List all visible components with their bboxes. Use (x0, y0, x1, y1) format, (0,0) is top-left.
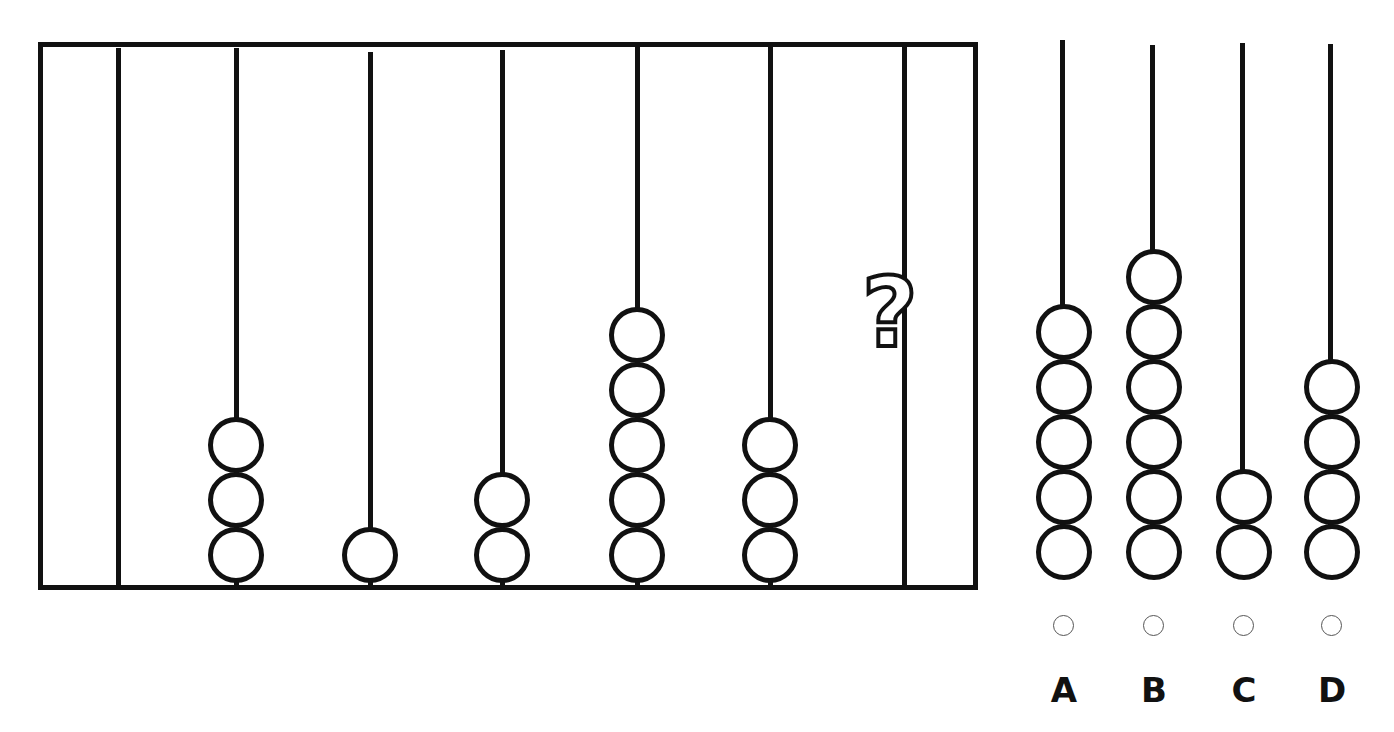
bead (474, 527, 530, 583)
bead (1126, 414, 1182, 470)
bead (1216, 469, 1272, 525)
bead (1036, 304, 1092, 360)
option-radio-a[interactable] (1053, 615, 1074, 636)
bead (1036, 524, 1092, 580)
bead (609, 307, 665, 363)
bead (609, 527, 665, 583)
bead (1126, 249, 1182, 305)
bead (1036, 359, 1092, 415)
bead (1216, 524, 1272, 580)
bead (742, 472, 798, 528)
option-label-d[interactable]: D (1312, 670, 1352, 710)
bead (1036, 469, 1092, 525)
bead (1036, 414, 1092, 470)
option-radio-c[interactable] (1233, 615, 1254, 636)
bead (609, 362, 665, 418)
bead (1126, 359, 1182, 415)
bead (742, 527, 798, 583)
bead (1304, 414, 1360, 470)
abacus-rod-3 (368, 52, 373, 585)
option-radio-b[interactable] (1143, 615, 1164, 636)
bead (208, 472, 264, 528)
bead (609, 417, 665, 473)
option-radio-d[interactable] (1321, 615, 1342, 636)
bead (208, 417, 264, 473)
bead (1126, 524, 1182, 580)
option-label-c[interactable]: C (1224, 670, 1264, 710)
bead (208, 527, 264, 583)
abacus-puzzle: ? ABCD (0, 0, 1394, 732)
bead (1304, 524, 1360, 580)
bead (1126, 304, 1182, 360)
bead (342, 527, 398, 583)
option-label-a[interactable]: A (1044, 670, 1084, 710)
question-mark-icon: ? (862, 265, 918, 361)
bead (742, 417, 798, 473)
abacus-rod-1 (116, 48, 121, 585)
bead (474, 472, 530, 528)
bead (1126, 469, 1182, 525)
bead (1304, 359, 1360, 415)
option-label-b[interactable]: B (1134, 670, 1174, 710)
bead (609, 472, 665, 528)
bead (1304, 469, 1360, 525)
